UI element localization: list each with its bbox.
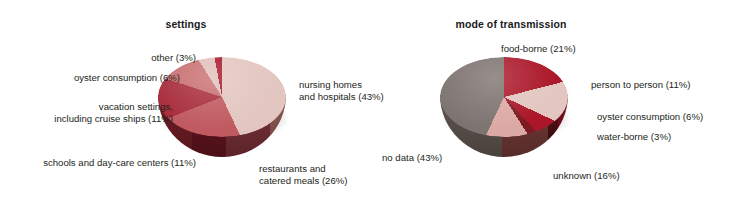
pie-top-face-settings (158, 57, 286, 137)
pie-top-face-transmission (440, 57, 568, 137)
label-oyster-consumption: oyster consumption (6%) (597, 111, 703, 124)
label-vacation-settings-line1: vacation settings, (0, 101, 173, 114)
label-food-borne: food-borne (21%) (501, 43, 576, 56)
label-restaurants-line2: catered meals (26%) (259, 175, 348, 188)
pie-charts-figure: settings other (3%) oyster consumption (… (0, 0, 746, 209)
pie-gloss (158, 57, 286, 137)
label-no-data: no data (43%) (382, 152, 442, 165)
label-vacation-settings-line2: including cruise ships (11%) (0, 113, 173, 126)
label-schools-day-care: schools and day-care centers (11%) (0, 157, 196, 170)
pie-chart-transmission (438, 55, 570, 160)
label-restaurants-line1: restaurants and (259, 163, 326, 176)
panel-settings: settings other (3%) oyster consumption (… (0, 0, 373, 209)
label-other: other (3%) (0, 52, 196, 65)
chart-title-transmission: mode of transmission (455, 18, 566, 30)
label-nursing-homes-line2: and hospitals (43%) (299, 91, 384, 104)
chart-title-settings: settings (165, 18, 206, 30)
label-oyster-consumption: oyster consumption (6%) (0, 72, 180, 85)
label-unknown: unknown (16%) (553, 170, 620, 183)
pie-chart-settings (156, 55, 288, 160)
panel-transmission: mode of transmission food-borne (21%) pe… (373, 0, 746, 209)
pie-gloss (440, 57, 568, 137)
label-person-to-person: person to person (11%) (591, 79, 691, 92)
label-water-borne: water-borne (3%) (597, 131, 671, 144)
label-nursing-homes-line1: nursing homes (299, 79, 362, 92)
